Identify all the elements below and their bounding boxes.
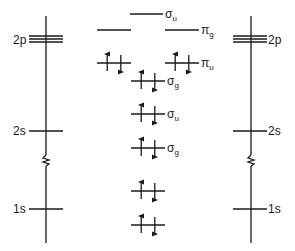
mo-diagram: 2p 2s 1s 2p 2s 1s σuπgπuσgσuσg <box>0 0 295 251</box>
mo-sigma-g-1s <box>131 216 165 234</box>
right-atom-axis: 2p 2s 1s <box>233 16 282 243</box>
mo-label-subscript: u <box>172 14 176 23</box>
mo-label-subscript: g <box>174 81 178 90</box>
mo-label: σg <box>167 74 179 90</box>
left-axis-break-icon <box>43 155 49 166</box>
mo-label: σu <box>167 107 179 123</box>
right-1s-label: 1s <box>268 202 281 216</box>
left-2s-label: 2s <box>13 124 26 138</box>
right-2s-label: 2s <box>268 124 281 138</box>
mo-label-subscript: g <box>209 30 213 39</box>
molecular-orbitals: σuπgπuσgσuσg <box>97 7 214 234</box>
right-axis-break-icon <box>248 155 254 166</box>
mo-sigma-g-2p: σg <box>131 72 179 90</box>
mo-label: σu <box>165 7 177 23</box>
mo-label-subscript: u <box>209 63 213 72</box>
left-atom-axis: 2p 2s 1s <box>13 16 63 243</box>
mo-label: πg <box>201 23 214 39</box>
mo-label: σg <box>167 141 179 157</box>
mo-sigma-u-star-2p: σu <box>130 7 177 23</box>
mo-label-subscript: u <box>174 114 178 123</box>
mo-pi-u-2p: πu <box>97 54 214 72</box>
mo-pi-g-star-2p: πg <box>97 23 214 39</box>
right-2p-label: 2p <box>268 33 282 47</box>
left-2p-label: 2p <box>13 33 27 47</box>
mo-sigma-g-2s: σg <box>131 139 179 157</box>
mo-sigma-u-star-2s: σu <box>131 105 179 123</box>
left-1s-label: 1s <box>13 202 26 216</box>
mo-label: πu <box>201 56 214 72</box>
mo-label-subscript: g <box>174 148 178 157</box>
mo-sigma-u-star-1s <box>131 182 165 200</box>
